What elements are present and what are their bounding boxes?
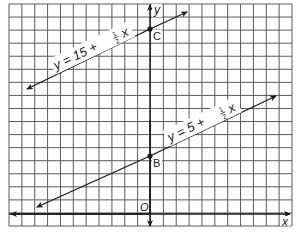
line-y-5-plus-half-x [37, 156, 150, 207]
svg-text:y = 5 +: y = 5 + [164, 114, 208, 145]
point-b-label: B [153, 157, 160, 169]
equation-label-1: y = 15 + 1 2 x [49, 21, 136, 74]
origin-label: O [140, 201, 149, 213]
line-y-5-plus-half-x-pos [150, 96, 276, 156]
y-axis-label: y [153, 3, 161, 17]
point-c [147, 26, 152, 31]
coordinate-plane: C B y x O y = 15 + 1 2 x y = 5 + 1 2 x [0, 0, 296, 236]
x-axis-label: x [281, 215, 289, 229]
point-b [147, 153, 152, 158]
point-c-label: C [153, 30, 161, 42]
